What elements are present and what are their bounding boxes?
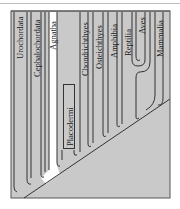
taxon-label-placodermi: Placodermi xyxy=(65,107,75,146)
taxon-label-reptilia: Reptilia xyxy=(124,29,133,56)
taxon-label-chondrichthyes: Chondrichthyes xyxy=(81,22,90,76)
taxon-label-aves: Aves xyxy=(138,17,147,34)
placodermi-box: Placodermi xyxy=(63,84,75,149)
cladogram-svg xyxy=(0,0,180,209)
taxon-label-urochordata: Urochordata xyxy=(16,17,25,59)
taxon-label-mammalia: Mammalia xyxy=(156,20,165,57)
taxon-label-amphibia: Amphibia xyxy=(110,24,119,58)
taxon-label-cephalochordata: Cephalochordata xyxy=(33,19,42,77)
cladogram-figure: Urochordata Cephalochordata Agnatha Plac… xyxy=(0,0,180,209)
taxon-label-osteichthyes: Osteichthyes xyxy=(95,25,104,69)
taxon-label-agnatha: Agnatha xyxy=(49,21,58,50)
